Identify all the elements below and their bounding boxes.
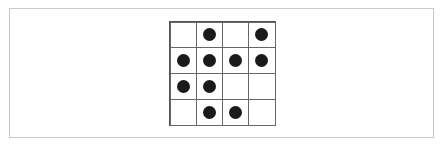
grid-cell-r0-c2	[222, 22, 249, 49]
dot-marker	[229, 106, 242, 119]
dot-marker	[229, 54, 242, 67]
dot-marker	[203, 28, 216, 41]
grid-cell-r1-c3	[248, 47, 275, 74]
grid-cell-r1-c2	[222, 47, 249, 74]
grid-cell-r0-c1	[196, 22, 223, 49]
grid-cell-r3-c2	[222, 99, 249, 126]
dot-marker	[255, 54, 268, 67]
grid-cell-r1-c0	[170, 47, 197, 74]
dot-marker	[203, 54, 216, 67]
dot-marker	[255, 28, 268, 41]
dot-marker	[177, 80, 190, 93]
grid-cell-r2-c0	[170, 73, 197, 100]
grid-cell-r0-c3	[248, 22, 275, 49]
dot-grid	[169, 21, 276, 126]
grid-cell-r2-c3	[248, 73, 275, 100]
grid-cell-r0-c0	[170, 22, 197, 49]
dot-marker	[203, 106, 216, 119]
dot-marker	[203, 80, 216, 93]
grid-cell-r2-c2	[222, 73, 249, 100]
grid-cell-r3-c0	[170, 99, 197, 126]
dot-marker	[177, 54, 190, 67]
grid-cell-r3-c3	[248, 99, 275, 126]
grid-cell-r1-c1	[196, 47, 223, 74]
grid-cell-r3-c1	[196, 99, 223, 126]
grid-cell-r2-c1	[196, 73, 223, 100]
